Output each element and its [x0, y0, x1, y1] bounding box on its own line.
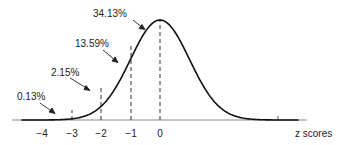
x-tick-label: −4: [36, 128, 48, 139]
annotation-13-59: 13.59%: [75, 38, 109, 49]
annotation-34-13: 34.13%: [93, 8, 127, 19]
x-tick-label: −3: [66, 128, 78, 139]
dashed-lines: [72, 21, 160, 120]
x-tick-label: −2: [95, 128, 107, 139]
normal-distribution-chart: 0.13% 2.15% 13.59% 34.13% −4 −3 −2 −1 0 …: [0, 0, 341, 145]
annotation-2-15: 2.15%: [51, 67, 79, 78]
annotation-0-13: 0.13%: [17, 91, 45, 102]
x-axis-label: z scores: [295, 128, 332, 139]
x-tick-label: −1: [125, 128, 137, 139]
x-tick-label: 0: [157, 128, 163, 139]
